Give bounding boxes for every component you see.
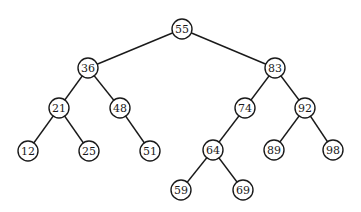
node-label: 48 <box>113 102 127 115</box>
node-label: 25 <box>82 145 96 158</box>
node-label: 89 <box>267 144 281 157</box>
tree-edge-55-83 <box>182 29 275 68</box>
tree-edge-55-36 <box>88 29 182 68</box>
tree-node-25: 25 <box>79 141 99 161</box>
node-label: 59 <box>174 184 188 197</box>
node-label: 69 <box>236 184 250 197</box>
binary-search-tree-diagram: 553683214874921225516489985969 <box>0 0 361 212</box>
tree-node-74: 74 <box>235 98 255 118</box>
tree-node-64: 64 <box>203 140 223 160</box>
node-label: 92 <box>298 102 312 115</box>
tree-node-83: 83 <box>265 58 285 78</box>
tree-node-98: 98 <box>323 140 343 160</box>
tree-node-51: 51 <box>140 141 160 161</box>
tree-node-69: 69 <box>233 180 253 200</box>
tree-node-59: 59 <box>171 180 191 200</box>
tree-node-21: 21 <box>49 98 69 118</box>
tree-edges <box>28 29 333 190</box>
node-label: 98 <box>326 144 340 157</box>
tree-nodes: 553683214874921225516489985969 <box>18 19 343 200</box>
tree-node-48: 48 <box>110 98 130 118</box>
node-label: 51 <box>143 145 157 158</box>
tree-node-36: 36 <box>78 58 98 78</box>
tree-node-55: 55 <box>172 19 192 39</box>
tree-node-89: 89 <box>264 140 284 160</box>
node-label: 83 <box>268 62 282 75</box>
node-label: 64 <box>206 144 220 157</box>
node-label: 21 <box>52 102 66 115</box>
node-label: 55 <box>175 23 189 36</box>
node-label: 12 <box>21 145 35 158</box>
tree-node-92: 92 <box>295 98 315 118</box>
tree-node-12: 12 <box>18 141 38 161</box>
node-label: 74 <box>238 102 252 115</box>
node-label: 36 <box>81 62 95 75</box>
